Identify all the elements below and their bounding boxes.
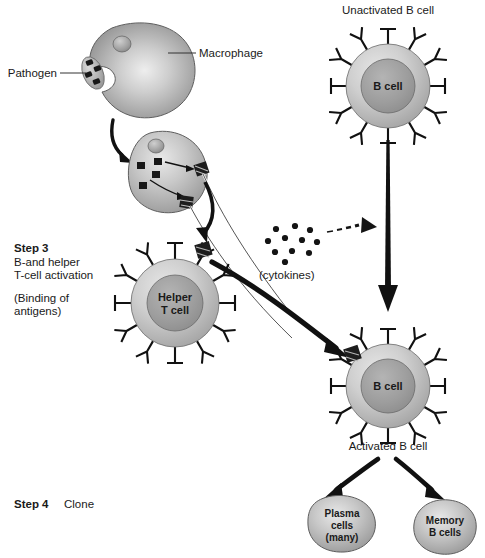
step3-paren-2: antigens) xyxy=(14,305,61,317)
plasma-cells-label-line2: cells xyxy=(331,520,354,531)
macrophage-nucleus xyxy=(113,36,131,52)
arrow-clone-left xyxy=(322,459,378,500)
helper-t-cell-nucleus xyxy=(147,275,203,331)
activated-b-cell-label: Activated B cell xyxy=(349,440,428,452)
macrophage-body xyxy=(90,23,195,118)
cytokine-dot xyxy=(282,259,288,265)
cytokine-dot xyxy=(289,248,295,254)
diagram-canvas: Macrophage Pathogen xyxy=(0,0,485,558)
apc-body xyxy=(128,131,207,212)
helper-t-cell-bound-antigen xyxy=(194,241,212,259)
step3-text-block: Step 3 B-and helper T-cell activation (B… xyxy=(14,242,93,317)
step4-text-block: Step 4 Clone xyxy=(14,498,94,510)
cytokine-dot xyxy=(273,226,279,232)
arrow-clone-right xyxy=(396,459,445,500)
arrow-unactivated-to-activated-b xyxy=(378,140,398,312)
pathogen-label: Pathogen xyxy=(8,67,57,79)
unactivated-b-cell-label: Unactivated B cell xyxy=(342,4,434,16)
helper-t-cell-label-line1: Helper xyxy=(158,291,193,303)
plasma-cells-group: Plasma cells (many) xyxy=(308,495,375,552)
cytokine-dot xyxy=(306,250,312,256)
memory-b-cells-label-line1: Memory xyxy=(426,515,465,526)
cytokine-dot xyxy=(282,235,288,241)
step3-line-2: T-cell activation xyxy=(14,269,93,281)
plasma-cells-label-line3: (many) xyxy=(326,532,359,543)
cytokine-dot xyxy=(265,238,271,244)
apc-internal-antigen xyxy=(154,158,162,165)
cytokine-dot xyxy=(292,223,298,229)
cytokine-dot xyxy=(299,237,305,243)
unactivated-b-cell-inner-label: B cell xyxy=(373,80,402,92)
activated-b-cell-group: B cell xyxy=(329,327,447,445)
step4-number: Step 4 xyxy=(14,498,49,510)
immunology-diagram: Macrophage Pathogen xyxy=(0,0,485,558)
arrow-macrophage-to-apc xyxy=(112,120,133,163)
cytokines-group: (cytokines) xyxy=(259,223,320,281)
step3-number: Step 3 xyxy=(14,242,49,254)
cytokine-dot xyxy=(314,239,320,245)
activated-b-cell-inner-label: B cell xyxy=(373,380,402,392)
cytokines-label: (cytokines) xyxy=(259,269,315,281)
helper-t-cell-label-line2: T cell xyxy=(161,304,189,316)
memory-b-cells-group: Memory B cells xyxy=(414,500,476,555)
macrophage-label: Macrophage xyxy=(199,47,263,59)
step3-line-1: B-and helper xyxy=(14,256,80,268)
apc-internal-antigen xyxy=(152,171,160,178)
apc-internal-antigen xyxy=(137,162,145,169)
apc-nucleus xyxy=(148,139,164,153)
macrophage-group xyxy=(90,23,195,118)
unactivated-b-cell-group: B cell xyxy=(329,27,447,145)
helper-t-cell-group: Helper T cell xyxy=(114,241,235,364)
apc-internal-antigen xyxy=(139,182,147,189)
cytokine-dot xyxy=(307,227,313,233)
arrow-cytokines-to-b-cell xyxy=(327,217,377,233)
cytokine-dot xyxy=(272,249,278,255)
memory-b-cells-label-line2: B cells xyxy=(429,527,462,538)
plasma-cells-label-line1: Plasma xyxy=(324,508,359,519)
antigen-presenting-cell-group xyxy=(128,131,209,212)
step3-paren-1: (Binding of xyxy=(14,292,70,304)
step4-caption: Clone xyxy=(64,498,94,510)
